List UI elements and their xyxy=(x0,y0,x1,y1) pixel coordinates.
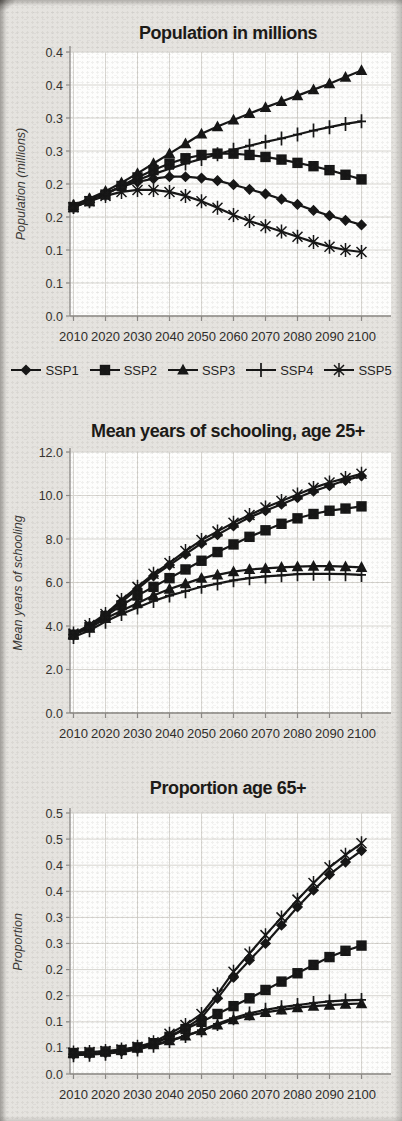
chart-title: Proportion age 65+ xyxy=(56,777,400,799)
square-marker xyxy=(292,513,302,523)
y-tick-label: 0.3 xyxy=(46,911,63,925)
x-tick-label: 2020 xyxy=(91,726,120,741)
x-tick-label: 2100 xyxy=(347,329,376,344)
age65-plot: 0.50.50.40.40.30.30.20.20.10.10.02010202… xyxy=(0,808,402,1114)
square-marker xyxy=(308,960,318,970)
square-marker xyxy=(244,532,254,542)
legend-label: SSP5 xyxy=(358,363,391,378)
y-tick-label: 0.4 xyxy=(46,859,63,873)
square-marker xyxy=(324,165,334,175)
scanned-figure-page: Population in millions Population (milli… xyxy=(0,0,402,1121)
y-tick-label: 0.4 xyxy=(46,46,63,60)
x-tick-label: 2100 xyxy=(347,726,376,741)
y-tick-label: 6.0 xyxy=(46,576,63,590)
y-tick-label: 0.3 xyxy=(46,145,63,159)
y-tick-label: 0.4 xyxy=(46,79,63,93)
y-tick-label: 0.1 xyxy=(46,1041,63,1055)
x-tick-label: 2070 xyxy=(251,329,280,344)
ssp3-line-triangle-icon xyxy=(167,361,199,379)
square-marker xyxy=(276,154,286,164)
x-tick-label: 2060 xyxy=(219,726,248,741)
y-tick-label: 0.5 xyxy=(46,808,63,821)
square-marker xyxy=(340,170,350,180)
y-tick-label: 8.0 xyxy=(46,533,63,547)
x-tick-label: 2040 xyxy=(155,1087,184,1102)
x-tick-label: 2040 xyxy=(155,329,184,344)
ssp1-line-diamond-icon xyxy=(10,361,42,379)
y-tick-label: 12.0 xyxy=(39,448,63,460)
square-marker xyxy=(164,573,174,583)
x-tick-label: 2100 xyxy=(347,1087,376,1102)
legend-label: SSP1 xyxy=(45,363,78,378)
legend-item-ssp5: SSP5 xyxy=(323,361,391,379)
square-marker xyxy=(356,940,366,950)
square-marker xyxy=(228,1001,238,1011)
chart-title: Mean years of schooling, age 25+ xyxy=(56,420,400,442)
y-tick-label: 0.0 xyxy=(46,707,63,721)
square-marker xyxy=(196,556,206,566)
ssp2-line-square-icon xyxy=(89,361,121,379)
y-tick-label: 0.0 xyxy=(46,310,63,324)
y-tick-label: 0.2 xyxy=(46,989,63,1003)
x-tick-label: 2090 xyxy=(315,329,344,344)
y-tick-label: 0.1 xyxy=(46,244,63,258)
square-marker xyxy=(228,539,238,549)
x-tick-label: 2060 xyxy=(219,329,248,344)
y-tick-label: 0.3 xyxy=(46,112,63,126)
x-tick-label: 2020 xyxy=(91,329,120,344)
square-marker xyxy=(340,946,350,956)
square-marker xyxy=(340,503,350,513)
x-tick-label: 2020 xyxy=(91,1087,120,1102)
y-tick-label: 0.2 xyxy=(46,178,63,192)
square-marker xyxy=(212,547,222,557)
legend-item-ssp2: SSP2 xyxy=(89,361,157,379)
y-tick-label: 0.4 xyxy=(46,885,63,899)
x-tick-label: 2060 xyxy=(219,1087,248,1102)
square-marker xyxy=(260,525,270,535)
square-marker xyxy=(99,365,109,375)
square-marker xyxy=(244,993,254,1003)
x-tick-label: 2030 xyxy=(123,1087,152,1102)
x-tick-label: 2080 xyxy=(283,1087,312,1102)
square-marker xyxy=(260,152,270,162)
x-tick-label: 2010 xyxy=(59,329,88,344)
y-tick-label: 10.0 xyxy=(39,489,63,503)
legend-label: SSP2 xyxy=(124,363,157,378)
legend-item-ssp4: SSP4 xyxy=(245,361,313,379)
square-marker xyxy=(276,976,286,986)
schooling-plot: 12.010.08.06.04.02.00.020102020203020402… xyxy=(0,448,402,748)
population-plot: 0.40.40.30.30.20.20.10.10.02010202020302… xyxy=(0,40,402,355)
square-marker xyxy=(292,968,302,978)
x-tick-label: 2050 xyxy=(187,329,216,344)
ssp4-line-plus-icon xyxy=(245,361,277,379)
x-tick-label: 2090 xyxy=(315,1087,344,1102)
x-tick-label: 2090 xyxy=(315,726,344,741)
y-tick-label: 2.0 xyxy=(46,663,63,677)
y-tick-label: 0.2 xyxy=(46,963,63,977)
x-tick-label: 2030 xyxy=(123,726,152,741)
x-tick-label: 2070 xyxy=(251,726,280,741)
square-marker xyxy=(308,161,318,171)
x-tick-label: 2010 xyxy=(59,1087,88,1102)
square-marker xyxy=(292,158,302,168)
x-tick-label: 2050 xyxy=(187,726,216,741)
y-tick-label: 0.1 xyxy=(46,1015,63,1029)
x-tick-label: 2070 xyxy=(251,1087,280,1102)
legend-item-ssp3: SSP3 xyxy=(167,361,235,379)
y-tick-label: 0.5 xyxy=(46,833,63,847)
x-tick-label: 2030 xyxy=(123,329,152,344)
x-tick-label: 2010 xyxy=(59,726,88,741)
legend-item-ssp1: SSP1 xyxy=(10,361,78,379)
x-tick-label: 2080 xyxy=(283,726,312,741)
y-tick-label: 4.0 xyxy=(46,620,63,634)
y-tick-label: 0.2 xyxy=(46,211,63,225)
square-marker xyxy=(324,506,334,516)
y-tick-label: 0.1 xyxy=(46,277,63,291)
legend-label: SSP3 xyxy=(202,363,235,378)
square-marker xyxy=(260,985,270,995)
plus-marker xyxy=(257,363,266,377)
x-tick-label: 2080 xyxy=(283,329,312,344)
diamond-marker xyxy=(21,364,32,375)
square-marker xyxy=(180,564,190,574)
square-marker xyxy=(356,174,366,184)
